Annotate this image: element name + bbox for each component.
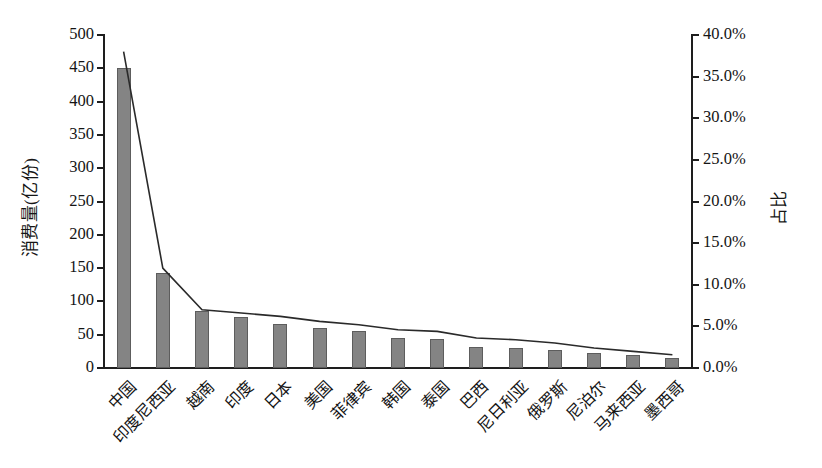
y-axis-left-tick	[97, 267, 103, 269]
y-axis-left-tick	[97, 367, 103, 369]
y-axis-left-tick	[97, 67, 103, 69]
bar	[117, 68, 131, 368]
y-axis-left-tick-label: 50	[24, 326, 94, 343]
chart-container: 消费量(亿份) 占比 05010015020025030035040045050…	[0, 0, 822, 468]
bar	[313, 328, 327, 368]
plot-area	[104, 35, 692, 368]
y-axis-left-tick-label: 450	[24, 59, 94, 76]
y-axis-left-tick	[97, 101, 103, 103]
y-axis-right-tick	[693, 34, 699, 36]
bar	[195, 311, 209, 368]
y-axis-left-tick-label: 100	[24, 292, 94, 309]
y-axis-left-tick	[97, 167, 103, 169]
y-axis-right-tick-label: 10.0%	[703, 276, 783, 293]
y-axis-left-tick-label: 350	[24, 126, 94, 143]
bar	[665, 358, 679, 368]
y-axis-right-tick	[693, 201, 699, 203]
y-axis-left-tick-label: 300	[24, 159, 94, 176]
y-axis-right-tick	[693, 325, 699, 327]
y-axis-right-tick-label: 5.0%	[703, 317, 783, 334]
bar	[234, 317, 248, 368]
y-axis-right-tick-label: 0.0%	[703, 359, 783, 376]
y-axis-left-tick	[97, 34, 103, 36]
y-axis-right-tick-label: 40.0%	[703, 26, 783, 43]
y-axis-right-tick-label: 15.0%	[703, 234, 783, 251]
y-axis-left-tick	[97, 334, 103, 336]
y-axis-right-tick	[693, 242, 699, 244]
bar	[430, 339, 444, 368]
bar	[626, 355, 640, 368]
bar	[587, 353, 601, 368]
y-axis-right-tick	[693, 117, 699, 119]
y-axis-left-tick-label: 250	[24, 193, 94, 210]
y-axis-right-tick	[693, 284, 699, 286]
y-axis-left-tick	[97, 300, 103, 302]
y-axis-left-tick-label: 0	[24, 359, 94, 376]
y-axis-left-tick-label: 150	[24, 259, 94, 276]
y-axis-left-tick-label: 400	[24, 93, 94, 110]
bar	[548, 350, 562, 368]
bar	[469, 347, 483, 368]
bar	[156, 273, 170, 368]
bar	[273, 324, 287, 368]
y-axis-left-tick	[97, 201, 103, 203]
bar	[391, 338, 405, 368]
y-axis-right-tick-label: 30.0%	[703, 109, 783, 126]
y-axis-right-tick-label: 20.0%	[703, 193, 783, 210]
y-axis-right-tick	[693, 367, 699, 369]
y-axis-left-tick-label: 500	[24, 26, 94, 43]
y-axis-left-tick	[97, 134, 103, 136]
y-axis-right-tick-label: 25.0%	[703, 151, 783, 168]
bar	[509, 348, 523, 368]
y-axis-right-tick	[693, 76, 699, 78]
y-axis-left-tick	[97, 234, 103, 236]
bar	[352, 331, 366, 368]
y-axis-left-tick-label: 200	[24, 226, 94, 243]
y-axis-right-tick-label: 35.0%	[703, 68, 783, 85]
y-axis-right-tick	[693, 159, 699, 161]
